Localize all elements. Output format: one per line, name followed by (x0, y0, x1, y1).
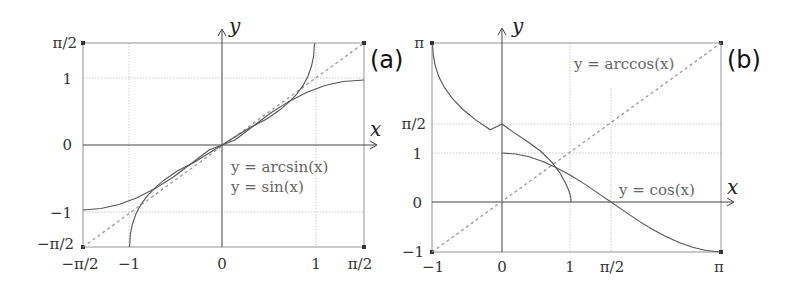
ytick-label: π/2 (53, 34, 77, 52)
plot-frame (432, 43, 721, 252)
panel-label: (b) (727, 46, 761, 74)
corner-marker (362, 41, 366, 45)
y-axis-label: y (228, 14, 241, 38)
figure: π/2 1 0 −1 −π/2 −π/2 −1 0 1 π/2 y x y = … (0, 0, 787, 287)
panel-b: π π/2 1 0 −1 −1 0 1 π/2 π y x y = arccos… (402, 14, 761, 276)
x-axis-label: x (727, 175, 738, 199)
xtick-label: 1 (565, 258, 575, 276)
xtick-label: −1 (118, 255, 140, 273)
panel-a: π/2 1 0 −1 −π/2 −π/2 −1 0 1 π/2 y x y = … (37, 14, 403, 273)
xtick-label: 1 (311, 255, 321, 273)
xtick-label: 0 (497, 258, 507, 276)
sin-label: y = sin(x) (230, 178, 304, 196)
xtick-label: π/2 (600, 258, 624, 276)
cos-label: y = cos(x) (618, 181, 695, 199)
ytick-label: −1 (50, 204, 72, 222)
y-axis-label: y (511, 14, 524, 38)
ytick-label: 1 (62, 70, 72, 88)
xtick-label: −π/2 (61, 255, 98, 273)
panel-label: (a) (370, 46, 403, 74)
ytick-label: 0 (62, 136, 72, 154)
identity-line (432, 43, 721, 252)
ytick-label: 1 (412, 145, 422, 163)
corner-marker (362, 245, 366, 249)
ytick-label: −1 (402, 243, 424, 261)
ytick-label: 0 (412, 194, 422, 212)
arcsin-label: y = arcsin(x) (230, 158, 328, 176)
arccos-label: y = arccos(x) (573, 55, 674, 73)
xtick-label: 0 (217, 255, 227, 273)
ytick-label: π (414, 34, 424, 52)
corner-marker (81, 41, 85, 45)
xtick-label: −1 (422, 258, 444, 276)
ytick-label: π/2 (402, 115, 426, 133)
ytick-label: −π/2 (37, 235, 74, 253)
xtick-label: π/2 (348, 255, 372, 273)
x-axis-label: x (370, 117, 381, 141)
xtick-label: π (714, 258, 724, 276)
